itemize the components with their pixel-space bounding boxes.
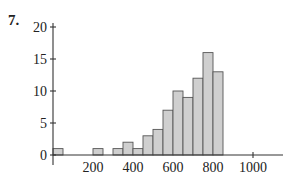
x-tick-label: 400 xyxy=(123,160,144,175)
y-tick-label: 10 xyxy=(33,84,47,99)
histogram-bar xyxy=(53,149,63,155)
x-tick-label: 600 xyxy=(163,160,184,175)
histogram-chart: 051015202004006008001000 xyxy=(0,0,283,189)
histogram-bar xyxy=(183,97,193,155)
y-tick-label: 20 xyxy=(33,20,47,35)
histogram-bar xyxy=(203,53,213,155)
x-tick-label: 200 xyxy=(83,160,104,175)
histogram-bar xyxy=(193,78,203,155)
histogram-bar xyxy=(173,91,183,155)
y-tick-label: 0 xyxy=(40,148,47,163)
histogram-bar xyxy=(93,149,103,155)
histogram-bar xyxy=(213,72,223,155)
x-tick-label: 1000 xyxy=(239,160,267,175)
y-tick-label: 15 xyxy=(33,52,47,67)
histogram-bar xyxy=(123,142,133,155)
histogram-bar xyxy=(163,110,173,155)
y-tick-label: 5 xyxy=(40,116,47,131)
x-tick-label: 800 xyxy=(203,160,224,175)
histogram-bar xyxy=(133,149,143,155)
histogram-bar xyxy=(113,149,123,155)
histogram-bar xyxy=(143,136,153,155)
histogram-bar xyxy=(153,129,163,155)
